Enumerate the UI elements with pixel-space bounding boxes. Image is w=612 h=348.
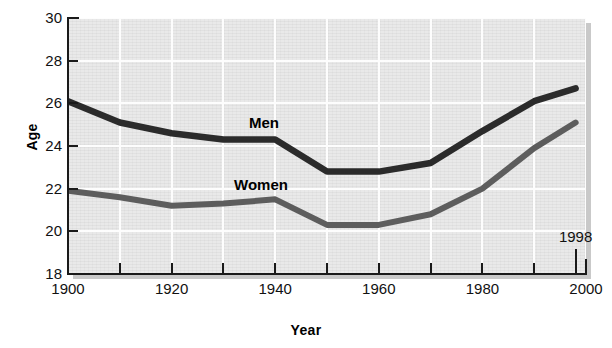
y-axis-top-cap [67, 17, 79, 19]
gridline-vertical [533, 18, 535, 274]
annotation-1998-label: 1998 [540, 228, 612, 245]
series-label-women: Women [234, 176, 288, 193]
y-axis-tick-label: 20 [18, 223, 62, 239]
y-axis-tick-label: 22 [18, 181, 62, 197]
x-axis-tick [378, 263, 380, 274]
gridline-vertical [481, 18, 483, 274]
x-axis-tick [533, 263, 535, 274]
y-axis-tick [67, 145, 78, 147]
x-axis-tick-label: 1900 [33, 280, 103, 298]
x-axis-title: Year [0, 322, 612, 338]
y-axis-tick-label: 30 [18, 10, 62, 26]
y-axis-tick-label: 28 [18, 53, 62, 69]
x-axis-tick [119, 263, 121, 274]
x-axis-tick-label: 1920 [137, 280, 207, 298]
x-axis-tick [222, 263, 224, 274]
gridline-vertical [430, 18, 432, 274]
y-axis-tick [67, 102, 78, 104]
y-axis-tick [67, 188, 78, 190]
x-axis-right-cap [585, 259, 587, 275]
gridline-vertical [326, 18, 328, 274]
plot-area [68, 18, 586, 274]
x-axis-tick-label: 2000 [551, 280, 612, 298]
gridline-vertical [222, 18, 224, 274]
x-axis-tick [326, 263, 328, 274]
x-axis-tick [274, 263, 276, 274]
x-axis-tick [430, 263, 432, 274]
series-label-men: Men [249, 114, 279, 131]
gridline-vertical [119, 18, 121, 274]
x-axis-tick [171, 263, 173, 274]
x-axis-tick-label: 1960 [344, 280, 414, 298]
gridline-vertical [171, 18, 173, 274]
y-axis-tick [67, 230, 78, 232]
y-axis-tick [67, 60, 78, 62]
gridline-vertical [274, 18, 276, 274]
x-axis-tick [481, 263, 483, 274]
x-axis-tick-label: 1940 [240, 280, 310, 298]
chart-figure: 18202224262830 190019201940196019802000 … [0, 0, 612, 348]
y-axis-title: Age [21, 107, 43, 167]
annotation-1998-tick [575, 249, 577, 275]
x-axis-tick-label: 1980 [447, 280, 517, 298]
x-axis-tick-labels: 190019201940196019802000 [0, 280, 612, 304]
gridline-vertical [378, 18, 380, 274]
